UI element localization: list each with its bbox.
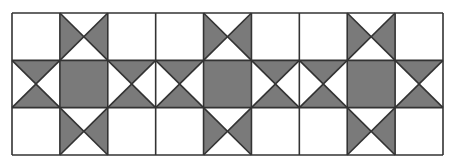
triangle-left	[60, 108, 84, 155]
triangle-left	[347, 108, 371, 155]
solid-square	[347, 60, 395, 107]
triangle-bottom	[156, 84, 204, 108]
triangle-bottom	[299, 84, 347, 108]
triangle-top	[299, 60, 347, 84]
quilt-diagram	[0, 0, 451, 162]
triangle-left	[347, 13, 371, 60]
triangle-right	[228, 108, 252, 155]
triangle-left	[60, 13, 84, 60]
triangle-bottom	[251, 84, 299, 108]
triangle-top	[108, 60, 156, 84]
triangle-top	[12, 60, 60, 84]
triangle-left	[204, 108, 228, 155]
solid-square	[204, 60, 252, 107]
triangle-bottom	[12, 84, 60, 108]
triangle-right	[371, 108, 395, 155]
triangle-bottom	[395, 84, 443, 108]
triangle-right	[84, 13, 108, 60]
triangle-right	[228, 13, 252, 60]
triangle-right	[371, 13, 395, 60]
triangle-left	[204, 13, 228, 60]
triangle-top	[395, 60, 443, 84]
triangle-bottom	[108, 84, 156, 108]
triangle-top	[156, 60, 204, 84]
solid-square	[60, 60, 108, 107]
triangle-right	[84, 108, 108, 155]
triangle-top	[251, 60, 299, 84]
